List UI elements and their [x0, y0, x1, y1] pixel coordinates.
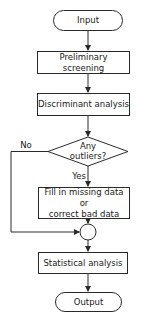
decision-label: Any outliers? — [58, 141, 118, 161]
fill-missing-data-line2: correct bad data — [49, 209, 119, 220]
statistical-analysis-box: Statistical analysis — [38, 252, 128, 274]
discriminant-analysis-label: Discriminant analysis — [38, 99, 129, 110]
preliminary-screening-label: Preliminary screening — [38, 52, 129, 74]
input-label: Input — [77, 15, 99, 26]
junction-circle — [80, 224, 96, 240]
output-terminal: Output — [55, 292, 122, 312]
decision-label-line1: Any — [58, 141, 118, 151]
output-label: Output — [74, 297, 104, 308]
yes-edge-label: Yes — [70, 171, 88, 181]
input-terminal: Input — [53, 10, 123, 31]
no-edge-label: No — [18, 140, 34, 150]
decision-label-line2: outliers? — [58, 151, 118, 161]
fill-missing-data-line1: Fill in missing data or — [39, 187, 129, 209]
statistical-analysis-label: Statistical analysis — [43, 258, 122, 269]
preliminary-screening-box: Preliminary screening — [37, 51, 130, 74]
fill-missing-data-box: Fill in missing data or correct bad data — [38, 187, 130, 219]
connector-lines — [0, 0, 147, 323]
discriminant-analysis-box: Discriminant analysis — [37, 93, 130, 116]
